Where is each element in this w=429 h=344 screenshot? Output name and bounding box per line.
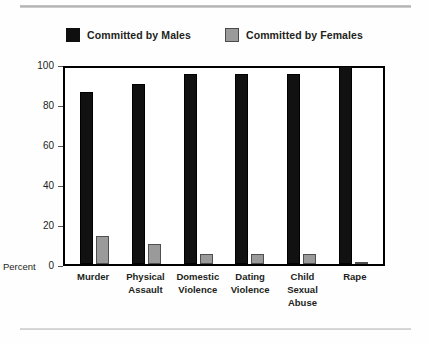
bar-group-murder <box>69 68 121 264</box>
bar-group-domestic-violence <box>172 68 224 264</box>
bar-female-murder <box>96 236 109 264</box>
bar-female-child-sexual-abuse <box>303 254 316 264</box>
chart-page: Committed by Males Committed by Females … <box>0 0 429 344</box>
x-label-murder: Murder <box>67 270 119 309</box>
bar-female-dating-violence <box>251 254 264 264</box>
plot-area <box>63 66 385 266</box>
bar-female-domestic-violence <box>200 254 213 264</box>
x-label-child-sexual-abuse: ChildSexualAbuse <box>276 270 328 309</box>
chart-legend: Committed by Males Committed by Females <box>0 28 429 42</box>
bar-male-rape <box>339 66 352 264</box>
x-label-physical-assault: PhysicalAssault <box>119 270 171 309</box>
y-tick-label-0: 0 <box>48 261 58 271</box>
y-tick-label-20: 20 <box>43 221 58 231</box>
bar-female-rape <box>355 262 368 264</box>
x-label-dating-violence: DatingViolence <box>224 270 276 309</box>
bar-female-physical-assault <box>148 244 161 264</box>
legend-label-females: Committed by Females <box>246 29 363 41</box>
bar-group-physical-assault <box>121 68 173 264</box>
bottom-divider-rule <box>20 328 411 330</box>
bar-male-dating-violence <box>235 74 248 264</box>
gray-square-icon <box>225 28 239 42</box>
bar-group-dating-violence <box>224 68 276 264</box>
bar-male-murder <box>80 92 93 264</box>
y-tick-label-60: 60 <box>43 141 58 151</box>
bar-male-domestic-violence <box>184 74 197 264</box>
y-tick-label-100: 100 <box>37 61 58 71</box>
bar-male-child-sexual-abuse <box>287 74 300 264</box>
legend-label-males: Committed by Males <box>87 29 191 41</box>
y-tick-label-80: 80 <box>43 101 58 111</box>
x-label-rape: Rape <box>329 270 381 309</box>
bars-container <box>65 68 383 264</box>
legend-item-females: Committed by Females <box>225 28 363 42</box>
bar-group-child-sexual-abuse <box>276 68 328 264</box>
top-divider-rule <box>20 5 411 8</box>
black-square-icon <box>66 28 80 42</box>
bar-group-rape <box>327 68 379 264</box>
y-axis: 100 80 60 40 20 0 Percent <box>0 66 63 266</box>
legend-item-males: Committed by Males <box>66 28 191 42</box>
y-axis-title: Percent <box>3 261 36 272</box>
x-axis: Murder PhysicalAssault DomesticViolence … <box>63 270 385 309</box>
x-label-domestic-violence: DomesticViolence <box>172 270 224 309</box>
bar-male-physical-assault <box>132 84 145 264</box>
y-tick-label-40: 40 <box>43 181 58 191</box>
